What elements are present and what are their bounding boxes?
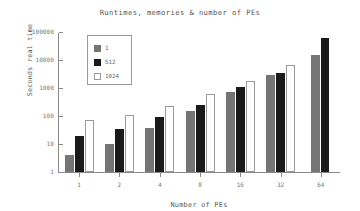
x-axis-tick-mark (79, 173, 80, 177)
bar-1-4 (145, 128, 154, 172)
bar-group (145, 106, 174, 172)
chart-figure: Runtimes, memories & number of PEs 11010… (0, 0, 360, 211)
x-axis-tick-label: 32 (269, 181, 293, 188)
y-axis-tick-label: 100 (43, 112, 54, 119)
legend-item-1024: 1024 (94, 69, 131, 83)
legend-item-512: 512 (94, 55, 131, 69)
y-axis-tick-label: 1 (50, 168, 54, 175)
bar-1024-8 (206, 94, 215, 172)
x-axis-tick-mark (321, 173, 322, 177)
chart-legend: 15121024 (87, 35, 132, 85)
x-axis-tick-label: 2 (107, 181, 131, 188)
bar-group (226, 81, 255, 172)
y-axis-tick-mark (59, 60, 63, 61)
bar-1-32 (266, 75, 275, 172)
y-axis-tick-mark (59, 88, 63, 89)
bar-512-32 (276, 73, 285, 172)
legend-label: 1 (105, 45, 109, 51)
x-axis-tick-mark (240, 173, 241, 177)
y-axis-tick-label: 10000 (35, 56, 54, 63)
y-axis-tick-mark (59, 144, 63, 145)
x-axis-label: Number of PEs (58, 201, 340, 209)
bar-512-4 (155, 117, 164, 172)
legend-item-1: 1 (94, 41, 131, 55)
x-axis-tick-mark (119, 173, 120, 177)
legend-swatch-icon (94, 45, 101, 52)
bar-512-64 (321, 38, 330, 172)
y-axis-tick-label: 1000 (39, 84, 54, 91)
bar-1-1 (65, 155, 74, 172)
bar-1024-4 (165, 106, 174, 172)
bar-group (311, 38, 330, 172)
bar-1024-16 (246, 81, 255, 172)
x-axis-tick-label: 8 (188, 181, 212, 188)
bar-512-2 (115, 129, 124, 172)
x-axis-tick-mark (160, 173, 161, 177)
bar-group (186, 94, 215, 172)
x-axis-tick-mark (281, 173, 282, 177)
bar-512-16 (236, 87, 245, 172)
legend-label: 1024 (105, 73, 119, 79)
x-axis-tick-mark (200, 173, 201, 177)
x-axis-tick-label: 64 (309, 181, 333, 188)
bar-group (105, 115, 134, 172)
y-axis-tick-label: 10 (47, 140, 54, 147)
bar-1-2 (105, 144, 114, 172)
bar-1-8 (186, 111, 195, 172)
x-axis-tick-label: 4 (148, 181, 172, 188)
bar-1-64 (311, 55, 320, 172)
bar-512-8 (196, 105, 205, 172)
y-axis-label: Seconds real time (26, 1, 34, 119)
bar-512-1 (75, 136, 84, 172)
bar-1024-1 (85, 120, 94, 172)
x-axis-tick-label: 16 (228, 181, 252, 188)
bar-1024-32 (286, 65, 295, 172)
y-axis-tick-mark (59, 172, 63, 173)
bar-group (266, 65, 295, 172)
y-axis-tick-mark (59, 116, 63, 117)
bar-group (65, 120, 94, 172)
x-axis-tick-label: 1 (67, 181, 91, 188)
legend-label: 512 (105, 59, 115, 65)
bar-1-16 (226, 92, 235, 173)
y-axis-tick-mark (59, 32, 63, 33)
legend-swatch-icon (94, 73, 101, 80)
y-axis-tick-label: 100000 (32, 28, 54, 35)
chart-title: Runtimes, memories & number of PEs (0, 8, 360, 17)
legend-swatch-icon (94, 59, 101, 66)
bar-1024-2 (125, 115, 134, 172)
